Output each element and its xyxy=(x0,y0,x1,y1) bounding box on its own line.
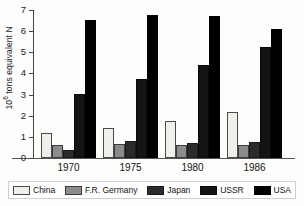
bar-germany-1980 xyxy=(176,145,187,158)
plot-area xyxy=(33,10,295,158)
x-axis-label-1980: 1980 xyxy=(163,162,223,173)
bar-chart-figure: 106 tons equivalent N 76543210 197019751… xyxy=(0,0,304,206)
y-axis-title: 106 tons equivalent N xyxy=(2,8,14,128)
x-axis-label-1970: 1970 xyxy=(39,162,99,173)
y-axis-tick-2: 2 xyxy=(0,116,33,117)
legend-item-germany[interactable]: F.R. Germany xyxy=(65,185,137,195)
bar-group-1980 xyxy=(165,10,223,158)
bar-japan-1970 xyxy=(63,150,74,158)
y-axis-tick-label: 5 xyxy=(21,45,26,58)
bar-usa-1970 xyxy=(85,20,96,158)
legend-swatch-china xyxy=(13,186,30,195)
y-axis-tick-label: 7 xyxy=(21,3,26,16)
x-axis-line xyxy=(12,158,295,159)
y-axis-tick-label: 4 xyxy=(21,66,26,79)
legend-item-ussr[interactable]: USSR xyxy=(200,185,244,195)
legend-label-japan: Japan xyxy=(167,185,190,195)
bar-china-1986 xyxy=(227,112,238,159)
legend-item-usa[interactable]: USA xyxy=(254,185,291,195)
bar-china-1970 xyxy=(41,133,52,158)
chart-legend: ChinaF.R. GermanyJapanUSSRUSA xyxy=(8,181,296,199)
bar-usa-1975 xyxy=(147,15,158,158)
y-axis-tick-label: 1 xyxy=(21,130,26,143)
y-axis-tick-label: 6 xyxy=(21,24,26,37)
bar-japan-1975 xyxy=(125,141,136,158)
y-axis-title-base: 10 xyxy=(4,100,14,110)
bar-ussr-1980 xyxy=(198,65,209,158)
legend-swatch-usa xyxy=(254,186,271,195)
bar-ussr-1986 xyxy=(260,47,271,158)
bar-usa-1986 xyxy=(271,29,282,158)
bar-usa-1980 xyxy=(209,16,220,158)
y-axis-tick-label: 0 xyxy=(21,151,26,164)
y-axis-tick-mark xyxy=(29,158,33,159)
legend-label-usa: USA xyxy=(274,185,291,195)
legend-label-china: China xyxy=(33,185,55,195)
bar-group-1986 xyxy=(227,10,285,158)
bar-ussr-1970 xyxy=(74,94,85,158)
y-axis-tick-4: 4 xyxy=(0,73,33,74)
y-axis-tick-7: 7 xyxy=(0,10,33,11)
bar-group-1975 xyxy=(103,10,161,158)
y-axis-tick-1: 1 xyxy=(0,137,33,138)
bar-japan-1986 xyxy=(249,142,260,158)
bar-group-1970 xyxy=(41,10,99,158)
bar-china-1975 xyxy=(103,128,114,158)
legend-item-china[interactable]: China xyxy=(13,185,55,195)
bar-china-1980 xyxy=(165,121,176,158)
y-axis-title-exponent: 6 xyxy=(2,96,9,100)
y-axis-title-rest: tons equivalent N xyxy=(4,26,14,96)
x-axis-label-1986: 1986 xyxy=(225,162,285,173)
y-axis-tick-5: 5 xyxy=(0,52,33,53)
legend-swatch-ussr xyxy=(200,186,217,195)
y-axis-tick-6: 6 xyxy=(0,31,33,32)
legend-label-ussr: USSR xyxy=(220,185,244,195)
legend-swatch-japan xyxy=(147,186,164,195)
y-axis-tick-0: 0 xyxy=(0,158,33,159)
bar-ussr-1975 xyxy=(136,79,147,158)
legend-label-germany: F.R. Germany xyxy=(85,185,137,195)
legend-swatch-germany xyxy=(65,186,82,195)
bar-germany-1970 xyxy=(52,145,63,158)
y-axis-tick-label: 3 xyxy=(21,88,26,101)
y-axis-tick-3: 3 xyxy=(0,95,33,96)
bar-germany-1975 xyxy=(114,144,125,158)
y-axis-tick-label: 2 xyxy=(21,109,26,122)
x-axis-label-1975: 1975 xyxy=(101,162,161,173)
bar-germany-1986 xyxy=(238,145,249,158)
bar-japan-1980 xyxy=(187,143,198,158)
legend-item-japan[interactable]: Japan xyxy=(147,185,190,195)
